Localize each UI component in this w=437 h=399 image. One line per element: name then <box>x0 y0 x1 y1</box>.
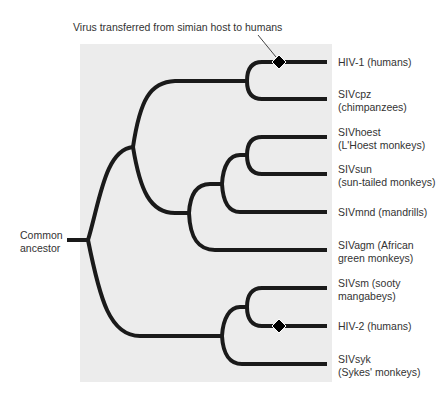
root-label-line2: ancestor <box>20 242 63 255</box>
leaf-label-hiv1: HIV-1 (humans) <box>338 56 412 69</box>
leaf-label-hiv2: HIV-2 (humans) <box>338 320 412 333</box>
callout-pointer <box>258 35 276 57</box>
leaf-line2: mangabeys) <box>338 290 400 303</box>
leaf-line1: HIV-1 (humans) <box>338 56 412 69</box>
leaf-line1: SIVsm (sooty <box>338 277 400 290</box>
branch-a-upper <box>133 81 247 147</box>
leaf-label-sivmnd: SIVmnd (mandrills) <box>338 206 427 219</box>
leaf-label-sivagm: SIVagm (African green monkeys) <box>338 239 414 264</box>
leaf-line2: (chimpanzees) <box>338 101 407 114</box>
leaf-line1: SIVagm (African <box>338 239 414 252</box>
branch-sivagm <box>189 213 327 250</box>
branch-sivhoest <box>247 137 327 155</box>
branch-sivcpz <box>247 81 327 99</box>
branch-c-upper <box>222 155 247 184</box>
leaf-label-sivhoest: SIVhoest (L'Hoest monkeys) <box>338 126 425 151</box>
branch-d-upper <box>222 307 247 336</box>
branch-hiv1 <box>247 62 327 81</box>
leaf-label-sivsyk: SIVsyk (Sykes' monkeys) <box>338 353 421 378</box>
leaf-line1: SIVsun <box>338 163 435 176</box>
transfer-diamond-icon <box>272 319 286 333</box>
leaf-line1: SIVsyk <box>338 353 421 366</box>
branch-sivmnd <box>222 184 327 212</box>
branch-root-upper <box>88 147 133 240</box>
leaf-line1: SIVcpz <box>338 88 407 101</box>
branch-a-lower <box>133 147 189 213</box>
leaf-line2: (Sykes' monkeys) <box>338 366 421 379</box>
branch-sivsun <box>247 155 327 174</box>
branch-b-upper <box>189 184 222 213</box>
transfer-callout-label: Virus transferred from simian host to hu… <box>73 21 282 33</box>
leaf-line2: (L'Hoest monkeys) <box>338 139 425 152</box>
common-ancestor-label: Common ancestor <box>20 229 63 254</box>
leaf-line1: SIVmnd (mandrills) <box>338 206 427 219</box>
leaf-label-sivsun: SIVsun (sun-tailed monkeys) <box>338 163 435 188</box>
leaf-line1: HIV-2 (humans) <box>338 320 412 333</box>
leaf-line2: green monkeys) <box>338 252 414 265</box>
leaf-line2: (sun-tailed monkeys) <box>338 176 435 189</box>
root-label-line1: Common <box>20 229 63 242</box>
branch-hiv2 <box>247 307 327 326</box>
leaf-line1: SIVhoest <box>338 126 425 139</box>
branch-root-lower <box>88 240 222 336</box>
leaf-label-sivcpz: SIVcpz (chimpanzees) <box>338 88 407 113</box>
transfer-diamond-icon <box>272 55 286 69</box>
leaf-label-sivsm: SIVsm (sooty mangabeys) <box>338 277 400 302</box>
branch-sivsm <box>247 288 327 307</box>
branch-sivsyk <box>222 336 327 364</box>
